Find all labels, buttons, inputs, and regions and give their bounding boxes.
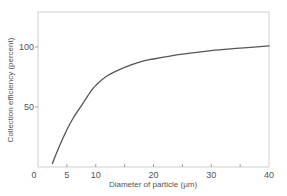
x-tick-label: 5 — [64, 170, 69, 180]
x-tick-label: 40 — [264, 170, 274, 180]
plot-frame — [38, 12, 269, 167]
x-tick-label: 10 — [91, 170, 101, 180]
chart: 0510203040 50100 Diameter of particle (μ… — [0, 0, 287, 196]
x-tick-label: 20 — [148, 170, 158, 180]
x-axis: 0510203040 — [31, 164, 274, 180]
y-tick-label: 50 — [24, 102, 34, 112]
x-axis-label: Diameter of particle (μm) — [109, 180, 198, 189]
y-axis: 50100 — [19, 42, 38, 112]
y-tick-label: 100 — [19, 42, 34, 52]
efficiency-curve — [52, 46, 269, 164]
y-axis-label: Collection efficiency (percent) — [6, 37, 15, 142]
x-tick-label: 30 — [206, 170, 216, 180]
x-tick-label: 0 — [31, 170, 36, 180]
